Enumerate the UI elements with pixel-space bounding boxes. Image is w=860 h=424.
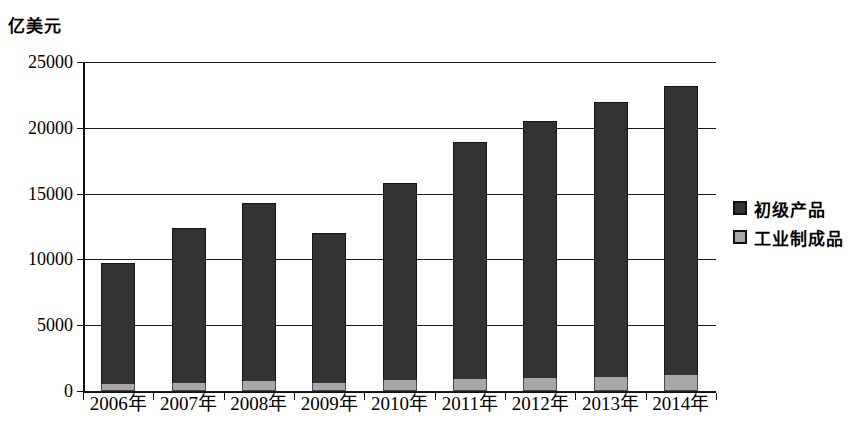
bar-segment-primary xyxy=(664,86,698,376)
legend-label-primary: 初级产品 xyxy=(754,196,826,221)
bar-segment-primary xyxy=(383,183,417,380)
gridline-25000 xyxy=(83,62,716,63)
bar-stack xyxy=(312,233,346,391)
y-tick-mark-0 xyxy=(77,391,84,392)
y-tick-label: 25000 xyxy=(28,53,73,71)
y-tick-mark-25000 xyxy=(77,62,84,63)
bar-segment-primary xyxy=(101,263,135,385)
plot-area xyxy=(83,62,716,393)
bar-segment-primary xyxy=(312,233,346,383)
bar-segment-manufactured xyxy=(242,381,276,391)
y-axis-unit-label: 亿美元 xyxy=(8,12,62,37)
bar-stack xyxy=(172,228,206,391)
legend-item-primary: 初级产品 xyxy=(733,198,844,218)
bar-segment-primary xyxy=(172,228,206,383)
x-tick-label: 2006年 xyxy=(83,394,153,414)
bar-segment-primary xyxy=(594,102,628,377)
bar-segment-manufactured xyxy=(594,377,628,391)
x-tick-label: 2010年 xyxy=(364,394,434,414)
y-tick-mark-10000 xyxy=(77,259,84,260)
bar-segment-manufactured xyxy=(453,379,487,391)
bar-stack xyxy=(383,183,417,391)
y-tick-label: 20000 xyxy=(28,119,73,137)
legend-swatch-manufactured-icon xyxy=(733,230,747,244)
bar-segment-manufactured xyxy=(312,383,346,391)
x-tick-label: 2012年 xyxy=(505,394,575,414)
bar-stack xyxy=(242,203,276,391)
bar-segment-primary xyxy=(453,142,487,379)
x-tick-label: 2007年 xyxy=(153,394,223,414)
legend-label-manufactured: 工业制成品 xyxy=(754,225,844,250)
bar-stack xyxy=(453,142,487,391)
x-tick-label: 2013年 xyxy=(575,394,645,414)
bar-segment-manufactured xyxy=(172,383,206,391)
bar-segment-manufactured xyxy=(664,375,698,391)
chart-legend: 初级产品 工业制成品 xyxy=(733,198,844,256)
y-tick-mark-15000 xyxy=(77,194,84,195)
y-tick-mark-5000 xyxy=(77,325,84,326)
gridline-0 xyxy=(83,391,716,392)
y-tick-label: 10000 xyxy=(28,250,73,268)
x-tick-label: 2011年 xyxy=(435,394,505,414)
x-tick-label: 2008年 xyxy=(224,394,294,414)
y-tick-label: 5000 xyxy=(37,316,73,334)
bar-segment-manufactured xyxy=(523,378,557,391)
bar-stack xyxy=(594,102,628,391)
bar-stack xyxy=(664,86,698,391)
y-tick-mark-20000 xyxy=(77,128,84,129)
x-tick-mark xyxy=(716,393,717,400)
y-tick-label: 0 xyxy=(64,382,73,400)
bar-segment-manufactured xyxy=(101,384,135,391)
chart-container: 亿美元 0500010000150002000025000 2006年2007年… xyxy=(0,0,860,424)
bar-stack xyxy=(101,263,135,391)
bar-segment-primary xyxy=(523,121,557,378)
legend-swatch-primary-icon xyxy=(733,201,747,215)
bar-segment-manufactured xyxy=(383,380,417,391)
legend-item-manufactured: 工业制成品 xyxy=(733,227,844,247)
bar-segment-primary xyxy=(242,203,276,381)
y-tick-label: 15000 xyxy=(28,185,73,203)
y-axis-line xyxy=(83,62,85,393)
x-tick-label: 2014年 xyxy=(646,394,716,414)
bar-stack xyxy=(523,121,557,391)
x-tick-label: 2009年 xyxy=(294,394,364,414)
